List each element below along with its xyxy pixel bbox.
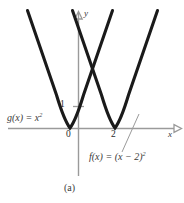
x-axis-arrowhead	[174, 125, 182, 133]
g-exponent: 2	[39, 111, 42, 118]
f-label-leader-line	[122, 114, 139, 152]
curve-f	[73, 11, 158, 129]
y-tick-label-1: 1	[60, 99, 65, 109]
curve-label-g: g(x) = x2	[7, 111, 42, 123]
x-axis-label: x	[168, 129, 172, 139]
figure-container: g(x) = x2 f(x) = (x − 2)2 y x 0 2 1 (a)	[0, 0, 184, 203]
f-exponent: 2	[142, 150, 145, 157]
curve-label-f: f(x) = (x − 2)2	[89, 150, 146, 162]
figure-caption: (a)	[64, 182, 75, 193]
x-tick-label-2: 2	[111, 129, 116, 139]
y-axis-label: y	[84, 8, 88, 18]
x-tick-label-0: 0	[66, 129, 71, 139]
graph-canvas	[0, 0, 184, 203]
